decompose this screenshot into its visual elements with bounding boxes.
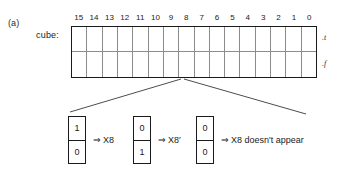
bit-pair-box: 1 0 <box>68 116 86 164</box>
bit-index-label: 11 <box>133 12 148 24</box>
cube-grid-row-true <box>72 27 316 52</box>
case-x8-negated: 0 1 ⇒ X8′ <box>133 114 181 166</box>
bit-index-label: 6 <box>209 12 224 24</box>
cube-cell <box>164 27 179 51</box>
cube-cell <box>103 27 118 51</box>
cube-cell <box>149 52 164 77</box>
bit-upper: 1 <box>69 117 85 141</box>
cube-cell <box>225 27 240 51</box>
cube-cell <box>179 27 194 51</box>
cube-cell <box>118 27 133 51</box>
row-annotation-true: .t <box>322 33 326 42</box>
bit-lower: 0 <box>69 141 85 164</box>
implies-arrow-icon: ⇒ <box>158 135 166 145</box>
bit-index-label: 12 <box>117 12 132 24</box>
implies-arrow-icon: ⇒ <box>221 135 229 145</box>
cube-cell <box>133 27 148 51</box>
case-x8-positive: 1 0 ⇒ X8 <box>68 114 114 166</box>
bit-index-label: 3 <box>256 12 271 24</box>
cube-cell <box>103 52 118 77</box>
case-meaning-text: X8′ <box>168 135 181 145</box>
cube-cell <box>133 52 148 77</box>
bit-index-label: 7 <box>194 12 209 24</box>
bit-index-label: 2 <box>271 12 286 24</box>
bit-pair-legend: 1 0 ⇒ X8 0 1 ⇒ X8′ 0 0 ⇒ <box>0 114 345 171</box>
cube-cell <box>271 52 286 77</box>
bit-lower: 0 <box>197 141 213 164</box>
cube-cell <box>179 52 194 77</box>
bit-index-label: 9 <box>163 12 178 24</box>
cube-cell <box>72 52 87 77</box>
row-annotation-false: .f <box>322 59 326 68</box>
panel-label: (a) <box>8 18 19 28</box>
bit-index-header: 15 14 13 12 11 10 9 8 7 6 5 4 3 2 1 0 <box>71 12 317 24</box>
cube-cell <box>87 52 102 77</box>
cube-cell <box>118 52 133 77</box>
bit-upper: 0 <box>134 117 150 141</box>
leader-line-right <box>184 79 306 114</box>
cube-cell <box>149 27 164 51</box>
bit-index-label: 15 <box>71 12 86 24</box>
bit-index-label: 1 <box>286 12 301 24</box>
cube-cell <box>256 27 271 51</box>
cube-grid-row-false <box>72 52 316 77</box>
cube-cell <box>225 52 240 77</box>
bit-index-label: 5 <box>225 12 240 24</box>
bit-index-label: 0 <box>302 12 317 24</box>
cube-cell <box>87 27 102 51</box>
bit-index-label: 13 <box>102 12 117 24</box>
cube-cell <box>195 52 210 77</box>
cube-cell <box>286 52 301 77</box>
leader-line-left <box>70 79 181 112</box>
bit-upper: 0 <box>197 117 213 141</box>
bit-index-label: 10 <box>148 12 163 24</box>
cube-cell <box>286 27 301 51</box>
case-meaning-text: X8 doesn't appear <box>231 135 304 145</box>
cube-cell <box>210 52 225 77</box>
case-x8-absent: 0 0 ⇒ X8 doesn't appear <box>196 114 304 166</box>
cube-cell <box>240 52 255 77</box>
bit-index-label: 4 <box>240 12 255 24</box>
cube-cell <box>210 27 225 51</box>
cube-cell <box>271 27 286 51</box>
figure-panel-a: (a) cube: 15 14 13 12 11 10 9 8 7 6 5 4 … <box>0 0 345 171</box>
cube-cell <box>164 52 179 77</box>
bit-lower: 1 <box>134 141 150 164</box>
cube-row-label: cube: <box>36 30 59 40</box>
bit-pair-box: 0 1 <box>133 116 151 164</box>
cube-bit-grid <box>71 26 317 78</box>
case-meaning-text: X8 <box>103 135 114 145</box>
case-meaning: ⇒ X8 <box>93 135 114 145</box>
cube-cell <box>240 27 255 51</box>
bit-index-label: 8 <box>179 12 194 24</box>
bit-index-label: 14 <box>86 12 101 24</box>
bit-pair-box: 0 0 <box>196 116 214 164</box>
implies-arrow-icon: ⇒ <box>93 135 101 145</box>
cube-cell <box>302 27 316 51</box>
cube-cell <box>302 52 316 77</box>
case-meaning: ⇒ X8′ <box>158 135 181 145</box>
cube-cell <box>256 52 271 77</box>
case-meaning: ⇒ X8 doesn't appear <box>221 135 304 145</box>
cube-cell <box>72 27 87 51</box>
cube-cell <box>195 27 210 51</box>
